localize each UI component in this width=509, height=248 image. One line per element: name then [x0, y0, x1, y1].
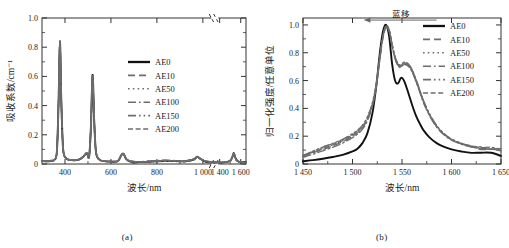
- y-tick-label: 0.2: [28, 131, 38, 140]
- y-tick-label: 0.4: [289, 104, 299, 113]
- x-tick-label: 1 500: [343, 168, 361, 177]
- y-tick-label: 0.8: [289, 49, 299, 58]
- legend-label-ae10: AE10: [450, 35, 470, 45]
- y-tick-label: 0.2: [289, 132, 299, 141]
- y-tick-label: 0.4: [28, 102, 38, 111]
- panel-b: 00.20.40.60.81.01 4501 5001 5501 6001 65…: [255, 0, 509, 248]
- x-tick-label: 600: [105, 168, 117, 177]
- y-tick-label: 0.8: [28, 43, 38, 52]
- y-axis-label: 吸收系数/cm⁻¹: [5, 60, 16, 122]
- legend-label-ae0: AE0: [450, 21, 466, 31]
- y-tick-label: 0.6: [28, 72, 38, 81]
- x-axis-label: 波长/nm: [127, 182, 162, 193]
- panel-a-caption: (a): [0, 232, 255, 242]
- legend-label-ae150: AE150: [450, 75, 474, 85]
- panel-a: 00.20.40.60.81.04006008001 0001 4001 600…: [0, 0, 255, 248]
- legend-label-ae100: AE100: [155, 97, 179, 107]
- figure-container: 00.20.40.60.81.04006008001 0001 4001 600…: [0, 0, 509, 248]
- x-tick-label: 1 650: [492, 168, 509, 177]
- panel-b-caption: (b): [255, 232, 509, 242]
- legend-label-ae50: AE50: [155, 84, 175, 94]
- panel-b-svg: 00.20.40.60.81.01 4501 5001 5501 6001 65…: [255, 0, 509, 222]
- legend-label-ae150: AE150: [155, 111, 179, 121]
- x-tick-label: 1 550: [393, 168, 411, 177]
- legend-label-ae200: AE200: [155, 124, 179, 134]
- legend-label-ae0: AE0: [155, 57, 171, 67]
- y-tick-label: 0: [34, 160, 38, 169]
- x-tick-label: 1 400: [211, 168, 229, 177]
- x-tick-label: 800: [151, 168, 163, 177]
- plot-frame: [42, 18, 246, 164]
- panel-a-plot: 00.20.40.60.81.04006008001 0001 4001 600…: [0, 0, 255, 248]
- legend-label-ae50: AE50: [450, 48, 470, 58]
- y-tick-label: 0.6: [289, 77, 299, 86]
- blueshift-annotation-label: 蓝移: [391, 9, 409, 19]
- legend-label-ae10: AE10: [155, 71, 175, 81]
- x-tick-label: 1 450: [294, 168, 312, 177]
- y-tick-label: 1.0: [289, 21, 299, 30]
- legend-label-ae200: AE200: [450, 88, 474, 98]
- x-tick-label: 400: [59, 168, 71, 177]
- panel-b-plot: 00.20.40.60.81.01 4501 5001 5501 6001 65…: [255, 0, 509, 248]
- axis-break-gap: [211, 17, 218, 19]
- panel-a-svg: 00.20.40.60.81.04006008001 0001 4001 600…: [0, 0, 254, 222]
- x-tick-label: 1 600: [232, 168, 250, 177]
- x-axis-label: 波长/nm: [384, 182, 419, 193]
- y-axis-label: 归一化强度/任意单位: [264, 45, 275, 138]
- legend-label-ae100: AE100: [450, 61, 474, 71]
- x-tick-label: 1 000: [194, 168, 212, 177]
- y-tick-label: 1.0: [28, 14, 38, 23]
- x-tick-label: 1 600: [442, 168, 460, 177]
